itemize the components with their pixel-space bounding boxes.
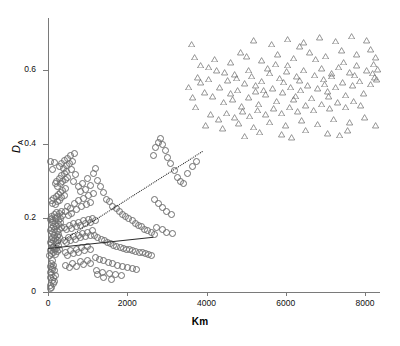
data-point-circle [75, 183, 82, 190]
data-point-circle [68, 225, 75, 232]
data-point-circle [59, 187, 66, 194]
data-point-triangle [209, 86, 216, 104]
scatter-plot-figure: DA Km 00.20.40.602000400060008000 [0, 0, 400, 346]
data-point-triangle [258, 70, 265, 88]
data-point-circle [57, 180, 64, 187]
data-point-circle [48, 284, 55, 291]
data-point-circle [125, 215, 132, 222]
data-point-circle [82, 186, 89, 193]
data-point-circle [54, 198, 61, 205]
y-axis-tick [43, 144, 48, 145]
data-point-circle [51, 267, 58, 274]
data-point-circle [49, 200, 56, 207]
data-point-triangle [274, 44, 281, 62]
data-point-circle [96, 256, 103, 263]
data-point-circle [75, 197, 82, 204]
data-point-circle [61, 170, 68, 177]
data-point-circle [110, 242, 117, 249]
data-point-circle [53, 223, 60, 230]
data-point-circle [52, 272, 59, 279]
data-point-triangle [334, 92, 341, 110]
data-point-circle [129, 217, 136, 224]
data-point-circle [79, 230, 86, 237]
data-point-triangle [245, 87, 252, 105]
data-point-triangle [342, 96, 349, 114]
data-point-triangle [266, 62, 273, 80]
data-point-circle [75, 219, 82, 226]
data-point-circle [113, 243, 120, 250]
data-point-triangle [293, 66, 300, 84]
data-point-circle [62, 262, 69, 269]
data-point-triangle [290, 47, 297, 65]
data-point-triangle [269, 78, 276, 96]
data-point-triangle [335, 56, 342, 74]
data-point-triangle [250, 116, 257, 134]
data-point-triangle [220, 91, 227, 109]
data-point-circle [136, 249, 143, 256]
data-point-circle [100, 189, 107, 196]
data-point-circle [84, 229, 91, 236]
data-point-circle [100, 274, 107, 281]
data-point-triangle [296, 36, 303, 54]
data-point-triangle [229, 89, 236, 107]
data-point-circle [69, 260, 76, 267]
data-point-circle [69, 158, 76, 165]
data-point-circle [84, 257, 91, 264]
y-axis-tick [43, 218, 48, 219]
data-point-circle [123, 246, 130, 253]
data-point-circle [119, 263, 126, 270]
y-axis-line [48, 18, 49, 293]
data-point-triangle [321, 73, 328, 91]
data-point-circle [54, 213, 61, 220]
data-point-circle [62, 249, 69, 256]
data-point-circle [150, 152, 157, 159]
data-point-triangle [357, 95, 364, 113]
data-point-circle [99, 269, 106, 276]
data-point-circle [117, 244, 124, 251]
dotted-trend-line [55, 151, 203, 246]
data-point-circle [57, 219, 64, 226]
data-point-triangle [372, 115, 379, 133]
data-point-triangle [302, 95, 309, 113]
data-point-circle [63, 162, 70, 169]
data-point-triangle [270, 98, 277, 116]
data-point-triangle [310, 99, 317, 117]
data-point-circle [73, 206, 80, 213]
data-point-circle [132, 220, 139, 227]
data-point-triangle [238, 96, 245, 114]
data-point-circle [48, 271, 55, 278]
data-point-triangle [273, 90, 280, 108]
data-point-circle [54, 183, 61, 190]
data-point-triangle [215, 109, 222, 127]
data-point-circle [148, 229, 155, 236]
data-point-triangle [288, 127, 295, 145]
data-point-triangle [262, 84, 269, 102]
data-point-triangle [283, 61, 290, 79]
data-point-triangle [276, 67, 283, 85]
data-point-circle [55, 221, 62, 228]
data-point-circle [169, 230, 176, 237]
data-point-circle [48, 250, 55, 257]
data-point-circle [54, 248, 61, 255]
data-point-triangle [197, 54, 204, 72]
data-point-triangle [318, 93, 325, 111]
data-point-triangle [231, 107, 238, 125]
data-point-triangle [256, 121, 263, 139]
data-point-triangle [272, 53, 279, 71]
data-point-triangle [227, 52, 234, 70]
data-point-circle [135, 222, 142, 229]
data-point-circle [144, 227, 151, 234]
data-point-triangle [348, 25, 355, 43]
data-point-triangle [332, 30, 339, 48]
data-point-triangle [264, 58, 271, 76]
data-point-circle [108, 276, 115, 283]
data-point-circle [60, 165, 67, 172]
data-point-triangle [320, 68, 327, 86]
data-point-triangle [188, 33, 195, 51]
data-point-circle [58, 172, 65, 179]
data-point-triangle [338, 40, 345, 58]
data-point-circle [184, 170, 191, 177]
data-point-triangle [360, 83, 367, 101]
data-point-circle [114, 262, 121, 269]
data-point-triangle [239, 101, 246, 119]
